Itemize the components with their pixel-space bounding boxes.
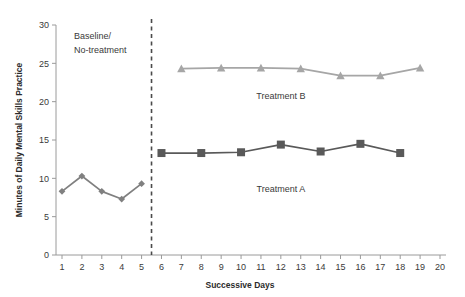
data-point-marker-square — [197, 149, 205, 157]
y-axis-tick-label: 0 — [44, 250, 49, 260]
y-axis-title: Minutes of Daily Mental Skills Practice — [14, 62, 24, 217]
x-axis-tick-label: 6 — [159, 262, 164, 272]
single-case-design-line-chart: 051015202530 123456789101112131415161718… — [0, 0, 465, 297]
x-axis-tick-label: 16 — [355, 262, 365, 272]
baseline-phase-label: Baseline/ — [74, 31, 112, 41]
data-point-marker-square — [157, 149, 165, 157]
x-axis-tick-label: 2 — [79, 262, 84, 272]
data-point-marker-square — [317, 148, 325, 156]
x-axis-tick-label: 14 — [316, 262, 326, 272]
chart-background — [0, 0, 465, 297]
x-axis-tick-label: 9 — [219, 262, 224, 272]
y-axis-tick-label: 5 — [44, 212, 49, 222]
x-axis-tick-label: 13 — [296, 262, 306, 272]
x-axis-tick-label: 8 — [199, 262, 204, 272]
y-axis-tick-label: 25 — [39, 59, 49, 69]
y-axis-tick-label: 10 — [39, 174, 49, 184]
data-point-marker-square — [356, 140, 364, 148]
chart-container: 051015202530 123456789101112131415161718… — [0, 0, 465, 297]
series-inline-label: Treatment A — [256, 184, 305, 194]
x-axis-tick-label: 12 — [276, 262, 286, 272]
data-point-marker-square — [277, 141, 285, 149]
x-axis-tick-label: 17 — [375, 262, 385, 272]
x-axis-tick-label: 11 — [256, 262, 265, 272]
x-axis-tick-label: 5 — [139, 262, 144, 272]
y-axis-tick-label: 20 — [39, 97, 49, 107]
data-point-marker-square — [237, 148, 245, 156]
baseline-phase-label: No-treatment — [74, 45, 127, 55]
x-axis-tick-label: 7 — [179, 262, 184, 272]
data-point-marker-square — [396, 149, 404, 157]
x-axis-tick-label: 19 — [415, 262, 425, 272]
series-inline-label: Treatment B — [256, 91, 305, 101]
x-axis-tick-label: 1 — [59, 262, 64, 272]
x-axis-tick-label: 20 — [435, 262, 445, 272]
x-axis-tick-label: 4 — [119, 262, 124, 272]
y-axis-tick-label: 30 — [39, 20, 49, 30]
x-axis-title: Successive Days — [206, 280, 275, 290]
y-axis-tick-label: 15 — [39, 135, 49, 145]
x-axis-tick-label: 18 — [395, 262, 405, 272]
x-axis-tick-label: 15 — [336, 262, 346, 272]
x-axis-tick-label: 3 — [99, 262, 104, 272]
x-axis-tick-label: 10 — [236, 262, 246, 272]
